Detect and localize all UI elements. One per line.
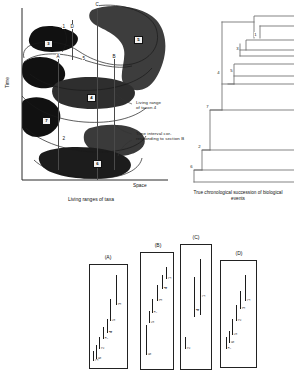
range-bar-a-3 bbox=[116, 275, 117, 305]
range-bar-a-4 bbox=[107, 319, 108, 333]
range-bar-b-5 bbox=[149, 311, 150, 323]
range-bar-a-2 bbox=[99, 337, 100, 349]
section-label-a: (A) bbox=[93, 254, 123, 260]
range-bar-a-1 bbox=[93, 351, 94, 361]
taxon-chip-4: 4 bbox=[87, 94, 96, 102]
range-bar-a-7 bbox=[103, 327, 104, 339]
tree-node-3: 3 bbox=[236, 46, 239, 51]
section-marker-d: D bbox=[70, 24, 74, 29]
range-label-d-7: 7 bbox=[228, 347, 232, 349]
section-box-c: 1 4 2 bbox=[180, 244, 212, 370]
taxon-marker-1: 1 bbox=[62, 24, 65, 29]
section-box-b: 1 4 3 7 5 6 bbox=[140, 252, 174, 370]
section-label-c: (C) bbox=[181, 234, 211, 240]
section-box-a: 3 5 4 7 2 6 1 bbox=[89, 264, 128, 369]
range-label-d-6: 6 bbox=[231, 341, 235, 343]
range-label-b-3: 3 bbox=[159, 299, 163, 301]
section-label-b: (B) bbox=[143, 242, 173, 248]
range-label-a-3: 3 bbox=[118, 303, 122, 305]
range-label-b-6: 6 bbox=[148, 353, 152, 355]
range-label-a-4: 4 bbox=[109, 331, 113, 333]
taxon-chip-6: 6 bbox=[93, 160, 102, 168]
figure-root: C D 1 A 5 B 3 5 4 7 6 2 Living range of … bbox=[0, 0, 294, 381]
range-bar-c-2 bbox=[185, 337, 186, 349]
section-line-a bbox=[58, 58, 59, 170]
range-bar-d-1 bbox=[245, 275, 246, 301]
caption-tree: True chronological succession of biologi… bbox=[186, 190, 290, 202]
caption-living-ranges: Living ranges of taxa bbox=[36, 196, 146, 202]
range-bar-a-6 bbox=[96, 345, 97, 359]
range-label-d-2: 2 bbox=[238, 319, 242, 321]
range-bar-d-5 bbox=[232, 319, 233, 335]
range-bar-d-6 bbox=[229, 331, 230, 343]
tree-node-2: 2 bbox=[198, 144, 201, 149]
range-bar-d-7 bbox=[226, 337, 227, 349]
taxon-chip-3: 3 bbox=[44, 40, 53, 48]
taxon-blob-7 bbox=[20, 97, 60, 137]
range-bar-b-7 bbox=[152, 299, 153, 313]
panel-true-chronological-tree: 1 3 4 5 7 2 6 True chronological success… bbox=[182, 0, 294, 212]
range-bar-b-6 bbox=[146, 325, 147, 355]
tree-node-7: 7 bbox=[206, 104, 209, 109]
taxon-chip-7: 7 bbox=[42, 117, 51, 125]
tree-node-4: 4 bbox=[217, 70, 220, 75]
section-line-c bbox=[97, 8, 98, 180]
section-line-b bbox=[114, 58, 115, 170]
range-label-c-1: 1 bbox=[202, 295, 206, 297]
annotation-time-interval-section-b: Time interval cor- responding to section… bbox=[136, 131, 184, 141]
tree-drawing bbox=[182, 0, 294, 190]
taxon-blob-3 bbox=[29, 26, 78, 52]
range-label-a-2: 2 bbox=[101, 347, 105, 349]
section-marker-b: B bbox=[112, 54, 116, 59]
range-label-b-7: 7 bbox=[154, 311, 158, 313]
range-bar-c-1 bbox=[200, 259, 201, 315]
annotation-living-range-taxon-4: Living range of taxon 4 bbox=[136, 100, 161, 110]
taxon-marker-5: 5 bbox=[82, 56, 85, 61]
range-label-c-4: 4 bbox=[196, 309, 200, 311]
range-bar-b-1 bbox=[166, 267, 167, 279]
range-bar-b-3 bbox=[157, 285, 158, 301]
axis-label-time: Time bbox=[4, 77, 10, 88]
range-label-a-1: 1 bbox=[95, 359, 99, 361]
axis-label-space: Space bbox=[133, 183, 147, 188]
taxon-marker-2: 2 bbox=[62, 136, 65, 141]
range-label-b-1: 1 bbox=[168, 277, 172, 279]
range-label-d-1: 1 bbox=[247, 299, 251, 301]
range-label-c-2: 2 bbox=[187, 347, 191, 349]
tree-node-5: 5 bbox=[230, 68, 233, 73]
range-label-b-4: 4 bbox=[164, 287, 168, 289]
panel-living-ranges: C D 1 A 5 B 3 5 4 7 6 2 Living range of … bbox=[0, 0, 182, 212]
range-label-a-7: 7 bbox=[105, 337, 109, 339]
range-bar-c-4 bbox=[194, 277, 195, 317]
section-box-d: 1 3 2 5 6 7 bbox=[220, 260, 257, 368]
range-label-a-5: 5 bbox=[112, 319, 116, 321]
range-bar-a-5 bbox=[110, 299, 111, 321]
tree-node-6: 6 bbox=[190, 164, 193, 169]
section-marker-c: C bbox=[95, 2, 99, 7]
range-bar-d-3 bbox=[240, 291, 241, 309]
taxon-chip-5: 5 bbox=[134, 36, 143, 44]
panel-stratigraphic-sections: (A) 3 5 4 7 2 6 1 (B) 1 4 3 7 bbox=[0, 224, 294, 381]
section-marker-a: A bbox=[56, 54, 60, 59]
range-bar-b-4 bbox=[162, 275, 163, 289]
range-label-d-5: 5 bbox=[234, 333, 238, 335]
section-label-d: (D) bbox=[224, 250, 254, 256]
range-label-b-5: 5 bbox=[151, 321, 155, 323]
range-label-d-3: 3 bbox=[242, 307, 246, 309]
tree-node-1: 1 bbox=[254, 32, 257, 37]
taxon-blob-4 bbox=[52, 77, 135, 109]
range-bar-d-2 bbox=[236, 305, 237, 321]
